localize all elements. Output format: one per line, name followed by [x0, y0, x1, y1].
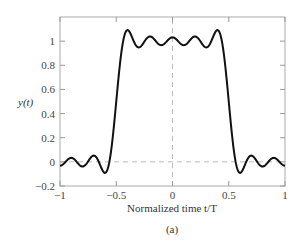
- x-tick-label: −0.5: [106, 189, 126, 201]
- x-tick-label: 1: [282, 189, 288, 201]
- y-tick-label: 1: [50, 35, 56, 47]
- y-axis-label: y(t): [17, 96, 34, 109]
- x-axis-label: Normalized time t/T: [127, 202, 217, 214]
- reference-lines: [60, 17, 285, 186]
- x-tick-label: 0: [170, 189, 176, 201]
- y-tick-label: 0.6: [41, 83, 55, 95]
- y-tick-label: 0.8: [41, 59, 55, 71]
- chart: −1−0.500.51−0.200.20.40.60.81 y(t) Norma…: [0, 0, 304, 242]
- x-tick-label: 0.5: [222, 189, 236, 201]
- x-tick-label: −1: [54, 189, 66, 201]
- y-tick-label: −0.2: [35, 180, 55, 192]
- y-tick-label: 0.4: [41, 108, 55, 120]
- y-tick-label: 0.2: [41, 132, 55, 144]
- figure-caption: (a): [166, 223, 179, 236]
- y-tick-label: 0: [50, 156, 56, 168]
